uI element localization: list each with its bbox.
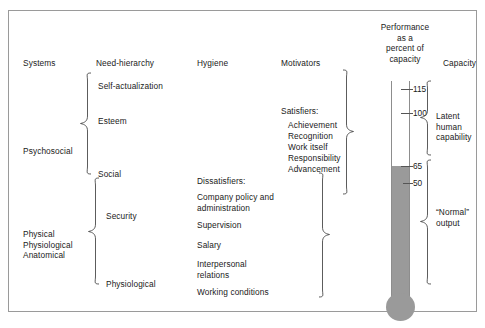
hygiene-item-0: Company policy and administration [197,192,274,213]
column-header-performance: Performance as a percent of capacity [374,22,436,64]
capacity-item-latent: Latent human capability [436,111,472,143]
column-header-capacity: Capacity [443,58,476,69]
hygiene-item-1: Supervision [197,220,241,231]
figure-panel: Systems Need-hierarchy Hygiene Motivator… [8,10,477,312]
need-item-social: Social [98,169,121,180]
systems-item-psychosocial: Psychosocial [23,146,73,157]
capacity-item-normal-output: “Normal” output [436,207,469,228]
brace-motivators [341,68,355,196]
thermometer-bulb [386,293,415,321]
tick-mark-65 [401,166,413,167]
hygiene-item-3: Interpersonal relations [197,259,247,280]
column-header-systems: Systems [23,58,56,69]
motivators-item-2: Work itself [288,142,328,153]
motivators-item-4: Advancement [288,164,340,175]
hygiene-item-2: Salary [197,240,221,251]
brace-latent-capability [419,79,433,157]
tick-mark-50 [403,183,413,184]
need-item-physiological: Physiological [106,279,156,290]
brace-hygiene [317,171,331,299]
need-item-security: Security [106,211,137,222]
need-item-self-actualization: Self-actualization [98,81,163,92]
thermometer-mercury-fill [392,166,409,303]
brace-psychosocial [79,71,93,176]
motivators-item-3: Responsibility [288,153,341,164]
systems-item-physical: Physical Physiological Anatomical [23,229,73,261]
motivators-item-1: Recognition [288,131,333,142]
need-item-esteem: Esteem [98,116,127,127]
hygiene-item-4: Working conditions [197,287,269,298]
brace-normal-output [419,158,433,286]
tick-mark-115 [401,89,413,90]
hygiene-heading: Dissatisfiers: [197,176,245,187]
column-header-motivators: Motivators [281,58,320,69]
column-header-hygiene: Hygiene [197,58,228,69]
column-header-need-hierarchy: Need-hierarchy [96,58,154,69]
tick-mark-100 [401,113,413,114]
motivators-item-0: Achievement [288,120,337,131]
brace-physical [87,176,101,286]
performance-thermometer [391,81,410,301]
motivators-heading: Satisfiers: [281,106,319,117]
